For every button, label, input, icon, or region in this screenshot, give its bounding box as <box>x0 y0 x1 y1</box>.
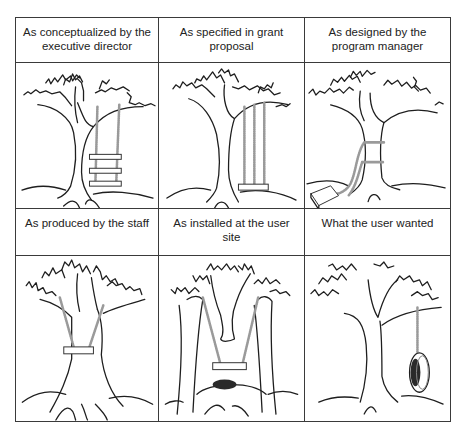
panel-caption-program-manager: As designed by the program manager <box>305 18 450 63</box>
tree-swing-around-trunk-illustration <box>305 63 450 208</box>
tree-seat-around-trunk-illustration <box>16 256 158 421</box>
split-tree-swing-illustration <box>159 256 304 421</box>
panel-caption-grant-proposal: As specified in grant proposal <box>159 18 305 63</box>
panel-drawing-staff <box>16 256 159 421</box>
panel-caption-user-site: As installed at the user site <box>159 209 305 256</box>
panel-drawing-executive-director <box>16 63 159 209</box>
panel-drawing-program-manager <box>305 63 450 209</box>
panel-drawing-grant-proposal <box>159 63 305 209</box>
cartoon-grid: As conceptualized by the executive direc… <box>15 17 451 422</box>
tree-tire-swing-illustration <box>305 256 450 421</box>
panel-caption-user-wanted: What the user wanted <box>305 209 450 256</box>
tree-three-rope-swing-illustration <box>159 63 304 208</box>
panel-drawing-user-site <box>159 256 305 421</box>
panel-caption-executive-director: As conceptualized by the executive direc… <box>16 18 159 63</box>
panel-drawing-user-wanted <box>305 256 450 421</box>
tree-three-tier-swing-illustration <box>16 63 158 208</box>
panel-caption-staff: As produced by the staff <box>16 209 159 256</box>
